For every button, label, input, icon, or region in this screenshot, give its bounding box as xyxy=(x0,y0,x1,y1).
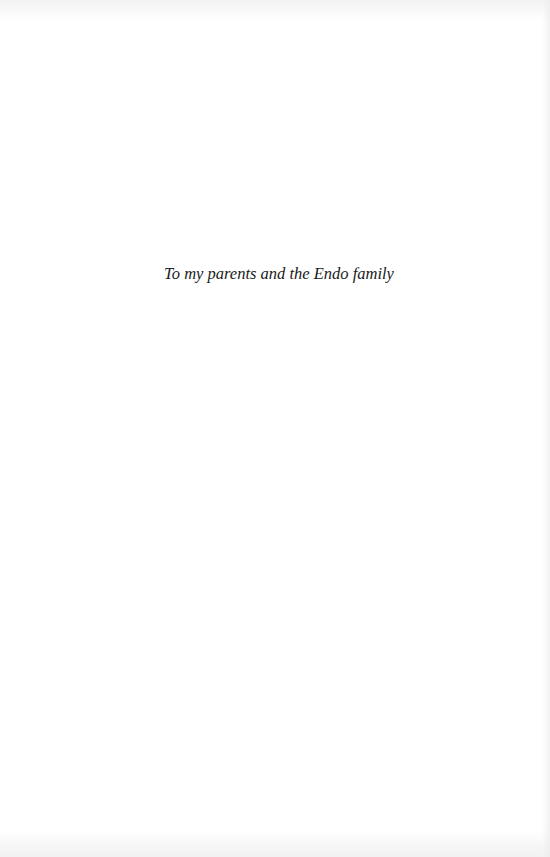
book-page: To my parents and the Endo family xyxy=(0,0,550,857)
dedication-line: To my parents and the Endo family xyxy=(0,264,550,284)
page-edge-shadow xyxy=(542,0,550,857)
dedication-text: To my parents and the Endo family xyxy=(164,264,394,284)
